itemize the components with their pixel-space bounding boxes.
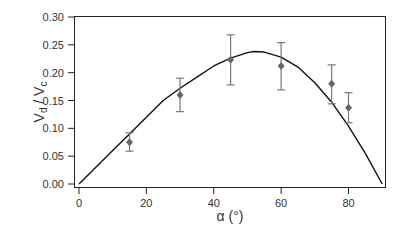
y-tick-label: 0.10 bbox=[43, 122, 64, 134]
diamond-marker-icon bbox=[345, 104, 352, 112]
diamond-marker-icon bbox=[126, 138, 133, 146]
y-tick-label: 0.25 bbox=[43, 39, 64, 51]
y-tick-label: 0.30 bbox=[43, 11, 64, 23]
data-points bbox=[126, 35, 353, 151]
y-tick-label: 0.00 bbox=[43, 178, 64, 190]
data-point bbox=[176, 78, 184, 111]
x-tick-label: 60 bbox=[275, 197, 287, 209]
data-point bbox=[277, 43, 285, 90]
y-axis: 0.000.050.100.150.200.250.30 bbox=[43, 11, 75, 190]
diamond-marker-icon bbox=[177, 91, 184, 99]
y-tick-label: 0.05 bbox=[43, 150, 64, 162]
x-tick-label: 80 bbox=[342, 197, 354, 209]
y-axis-label: Vd / Vc bbox=[31, 82, 49, 123]
diamond-marker-icon bbox=[278, 62, 285, 70]
y-tick-label: 0.20 bbox=[43, 67, 64, 79]
diamond-marker-icon bbox=[328, 80, 335, 88]
chart: 0.000.050.100.150.200.250.30 020406080 α… bbox=[0, 0, 402, 241]
data-point bbox=[345, 93, 353, 123]
data-point bbox=[126, 133, 134, 151]
x-axis-label: α (°) bbox=[217, 208, 244, 224]
x-tick-label: 20 bbox=[140, 197, 152, 209]
x-axis: 020406080 bbox=[76, 188, 355, 210]
data-point bbox=[227, 35, 235, 85]
x-tick-label: 0 bbox=[76, 197, 82, 209]
